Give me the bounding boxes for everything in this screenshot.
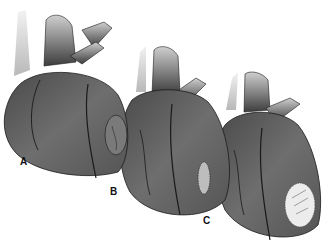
heart-c [216, 72, 320, 240]
patch-c [285, 183, 315, 227]
label-b: B [110, 186, 117, 197]
heart-b [120, 46, 229, 215]
patch-b [198, 162, 210, 194]
label-a: A [20, 156, 27, 167]
label-c: C [203, 215, 210, 226]
heart-illustration [0, 0, 322, 248]
heart-a [4, 10, 127, 178]
